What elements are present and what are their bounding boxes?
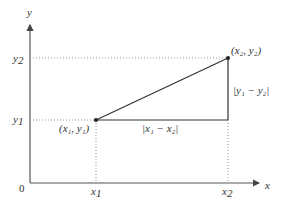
x1-tick-label: x1 [90,185,101,199]
point-2-label: (x₂, y₂) [231,44,262,57]
origin-label: 0 [19,182,25,194]
horizontal-distance-label: |x₁ − x₂| [142,122,178,134]
point-1 [94,118,98,122]
point-1-label: (x₁, y₁) [59,122,90,135]
y-axis-label: y [26,6,32,18]
point-2 [226,56,230,60]
hypotenuse [96,58,228,120]
vertical-distance-label: |y₁ − y₂| [233,84,269,96]
distance-diagram: y x 0 y2 y1 x1 x2 (x₁, y₁) (x₂, y₂) |x₁ … [0,0,285,207]
x-axis-label: x [264,179,270,191]
x2-tick-label: x2 [221,185,233,199]
y1-tick-label: y1 [12,113,23,127]
y2-tick-label: y2 [12,52,24,66]
